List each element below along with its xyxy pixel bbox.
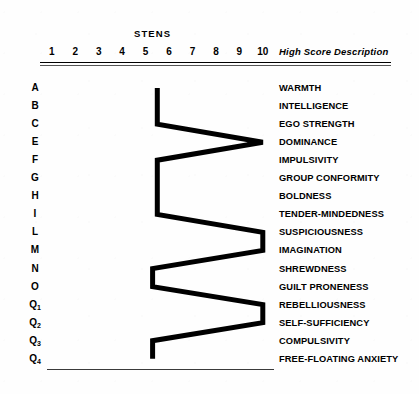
factor-letter-G: G <box>22 173 48 183</box>
description-f: IMPULSIVITY <box>279 155 338 165</box>
description-m: IMAGINATION <box>279 245 342 255</box>
description-g: GROUP CONFORMITY <box>279 173 380 183</box>
description-a: WARMTH <box>279 83 321 93</box>
factor-letter-I: I <box>22 209 48 219</box>
factor-letter-E: E <box>22 137 48 147</box>
description-l: SUSPICIOUSNESS <box>279 227 363 237</box>
profile-polyline <box>153 88 263 359</box>
description-e: DOMINANCE <box>279 137 337 147</box>
factor-letter-subscript: 2 <box>37 322 41 329</box>
factor-letter-Q3: Q3 <box>22 336 48 347</box>
description-i: TENDER-MINDEDNESS <box>279 209 384 219</box>
sten-profile-chart: FACTOR STENS 12345678910 High Score Desc… <box>0 0 419 394</box>
factor-letter-M: M <box>22 245 48 255</box>
factor-letter-L: L <box>22 227 48 237</box>
factor-letter-subscript: 4 <box>37 358 41 365</box>
factor-letter-F: F <box>22 155 48 165</box>
factor-letter-A: A <box>22 83 48 93</box>
description-b: INTELLIGENCE <box>279 101 348 111</box>
description-q3: COMPULSIVITY <box>279 336 350 346</box>
factor-letter-base: Q <box>29 335 37 346</box>
factor-letter-base: Q <box>29 299 37 310</box>
description-o: GUILT PRONENESS <box>279 282 369 292</box>
factor-letter-H: H <box>22 191 48 201</box>
description-q2: SELF-SUFFICIENCY <box>279 318 369 328</box>
factor-letter-base: Q <box>29 353 37 364</box>
factor-letter-base: Q <box>29 317 37 328</box>
factor-letter-Q2: Q2 <box>22 318 48 329</box>
description-n: SHREWDNESS <box>279 264 347 274</box>
factor-letter-O: O <box>22 282 48 292</box>
description-q4: FREE-FLOATING ANXIETY <box>279 354 398 364</box>
factor-letter-Q4: Q4 <box>22 354 48 365</box>
footer-divider-rule <box>47 369 274 370</box>
factor-letter-C: C <box>22 119 48 129</box>
factor-letter-B: B <box>22 101 48 111</box>
profile-line <box>0 0 419 394</box>
description-q1: REBELLIOUSNESS <box>279 300 366 310</box>
factor-letter-subscript: 1 <box>37 304 41 311</box>
factor-letter-N: N <box>22 264 48 274</box>
factor-letter-Q1: Q1 <box>22 300 48 311</box>
description-h: BOLDNESS <box>279 191 331 201</box>
factor-letter-subscript: 3 <box>37 340 41 347</box>
description-c: EGO STRENGTH <box>279 119 355 129</box>
